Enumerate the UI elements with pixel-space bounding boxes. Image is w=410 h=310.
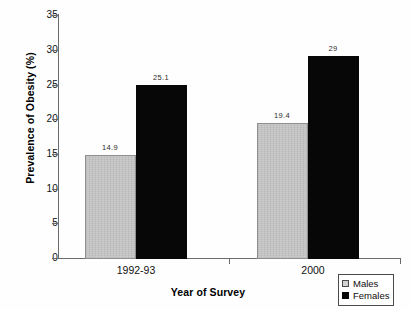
x-tick-mark-end	[400, 258, 401, 264]
x-category-label-1992-93: 1992-93	[106, 264, 166, 276]
y-axis-line	[58, 14, 59, 259]
x-category-label-2000: 2000	[288, 264, 338, 276]
x-axis-title: Year of Survey	[58, 286, 358, 298]
bar-value-males-2000: 19.4	[259, 112, 305, 120]
obesity-prevalence-bar-chart: Prevalence of Obesity (%) 35 30 25 20 15…	[0, 0, 410, 310]
legend-item-males: Males	[342, 278, 389, 289]
bar-value-females-1992-93: 25.1	[138, 74, 184, 82]
legend-swatch-males-icon	[342, 280, 349, 287]
legend-label-females: Females	[353, 291, 389, 301]
bar-value-females-2000: 29	[310, 45, 356, 53]
bar-females-1992-93	[136, 85, 187, 259]
x-tick-mark-mid	[229, 258, 230, 264]
chart-legend: Males Females	[338, 274, 394, 306]
bar-value-males-1992-93: 14.9	[87, 144, 133, 152]
bar-females-2000	[308, 56, 359, 259]
legend-label-males: Males	[353, 279, 378, 289]
bar-males-2000	[257, 123, 308, 259]
legend-item-females: Females	[342, 290, 389, 301]
bar-males-1992-93	[85, 155, 136, 259]
legend-swatch-females-icon	[342, 292, 349, 299]
